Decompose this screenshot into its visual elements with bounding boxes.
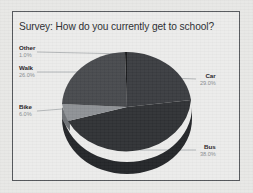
callout-walk-label: Walk [19,64,35,72]
callout-walk-value: 26.0% [19,72,35,79]
callout-car-label: Car [200,72,216,80]
callout-bike: Bike 6.0% [19,103,32,118]
callout-bus-value: 38.0% [200,151,216,158]
callout-other-label: Other [19,44,35,52]
callout-walk: Walk 26.0% [19,64,35,79]
pie-slice-walk [62,52,127,107]
pie-slice-car [127,52,191,107]
callout-bike-value: 6.0% [19,111,32,118]
callout-other: Other 1.0% [19,44,35,59]
callout-car-value: 29.0% [200,80,216,87]
callout-bus: Bus 38.0% [200,143,216,158]
callout-other-value: 1.0% [19,52,35,59]
pie-body [62,52,192,174]
callout-bus-label: Bus [200,143,216,151]
callout-car: Car 29.0% [200,72,216,87]
chart-title: Survey: How do you currently get to scho… [19,21,214,32]
callout-bike-label: Bike [19,103,32,111]
